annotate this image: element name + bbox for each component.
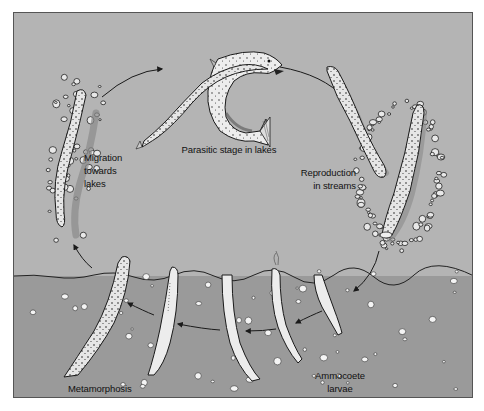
pebble	[403, 338, 407, 341]
pebble	[392, 106, 395, 108]
pebble	[346, 289, 349, 292]
pebble	[91, 92, 98, 98]
pebble	[358, 185, 363, 188]
pebble	[196, 302, 202, 306]
pebble	[49, 158, 53, 161]
pebble	[362, 357, 368, 362]
pebble	[432, 194, 437, 199]
pebble	[75, 158, 78, 160]
pebble	[46, 168, 50, 171]
pebble	[296, 300, 301, 304]
pebble	[380, 241, 385, 246]
pebble	[48, 181, 52, 184]
pebble	[397, 241, 400, 244]
pebble	[393, 102, 397, 106]
pebble	[68, 104, 71, 106]
pebble	[391, 242, 394, 245]
label-migration-line1: Migration	[84, 151, 122, 164]
label-ammocoete-larvae: Ammocoete larvae	[310, 369, 370, 395]
pebble	[230, 386, 238, 392]
pebble	[367, 125, 372, 130]
pebble	[376, 117, 382, 122]
pebble	[450, 278, 457, 283]
pebble	[358, 202, 365, 207]
pebble	[388, 113, 391, 116]
pebble	[431, 199, 434, 202]
pebble	[378, 111, 385, 117]
pebble	[320, 355, 328, 361]
pebble	[364, 223, 371, 230]
label-migration: Migration towards lakes	[84, 151, 122, 190]
pebble	[62, 294, 69, 299]
pebble	[377, 224, 383, 229]
pebble	[455, 270, 458, 273]
pebble	[399, 329, 406, 335]
pebble	[385, 248, 387, 250]
pebble	[126, 333, 132, 339]
label-parasitic-stage: Parasitic stage in lakes	[169, 143, 289, 156]
label-migration-line3: lakes	[84, 177, 122, 190]
pebble	[354, 158, 357, 160]
pebble	[205, 282, 211, 287]
pebble	[429, 203, 432, 206]
pebble	[73, 306, 78, 311]
pebble	[333, 334, 336, 337]
pebble	[317, 270, 321, 273]
pebble	[124, 299, 128, 303]
pebble	[393, 383, 398, 387]
label-reproduction-line1: Reproduction	[284, 166, 356, 179]
pebble	[67, 174, 70, 177]
lamprey-life-cycle-illustration	[14, 13, 473, 398]
sediment-area	[14, 276, 473, 398]
pebble	[299, 285, 306, 292]
pebble	[373, 231, 379, 237]
pebble	[441, 172, 447, 177]
pebble	[432, 135, 439, 142]
pebble	[303, 348, 306, 352]
pebble	[368, 301, 374, 308]
pebble	[63, 95, 68, 98]
pebble	[49, 147, 56, 154]
pebble	[265, 330, 272, 336]
pebble	[98, 86, 101, 88]
diagram-frame: Parasitic stage in lakes Migration towar…	[13, 12, 473, 398]
pebble	[61, 117, 67, 122]
pebble	[373, 222, 377, 225]
pebble	[435, 177, 438, 180]
pebble	[211, 380, 214, 383]
pebble	[454, 388, 458, 391]
pebble	[72, 83, 76, 86]
pebble	[245, 317, 252, 324]
pebble	[296, 287, 299, 289]
pebble	[274, 358, 281, 365]
pebble	[81, 304, 87, 310]
pebble	[369, 120, 376, 125]
pebble	[359, 177, 364, 181]
pebble	[355, 195, 360, 199]
label-larvae-line2: larvae	[310, 382, 370, 395]
pebble	[336, 351, 339, 354]
pebble	[440, 156, 444, 159]
pebble	[405, 99, 409, 102]
pebble	[442, 361, 445, 363]
pebble	[231, 356, 235, 360]
pebble	[429, 125, 433, 129]
pebble	[360, 156, 364, 159]
pebble	[151, 285, 154, 287]
pebble	[30, 310, 36, 315]
pebble	[54, 238, 59, 242]
pebble	[374, 353, 377, 356]
pebble	[74, 144, 80, 149]
pebble	[400, 249, 404, 253]
pebble	[237, 318, 242, 323]
pebble	[143, 274, 150, 280]
pebble	[402, 241, 408, 245]
label-reproduction-line2: in streams	[284, 179, 356, 192]
pebble	[427, 212, 434, 217]
pebble	[101, 101, 106, 105]
pebble	[195, 373, 201, 379]
label-metamorphosis: Metamorphosis	[68, 382, 132, 395]
pebble	[419, 223, 423, 227]
pebble	[378, 121, 381, 123]
pebble	[430, 152, 434, 155]
